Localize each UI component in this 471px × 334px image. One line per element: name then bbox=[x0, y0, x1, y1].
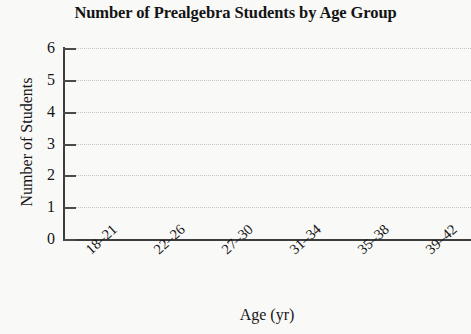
y-axis-tick-label: 0 bbox=[29, 231, 55, 247]
y-axis-tick bbox=[63, 239, 76, 241]
y-axis-tick bbox=[63, 48, 76, 50]
x-axis-title: Age (yr) bbox=[63, 306, 471, 324]
y-axis-tick bbox=[63, 112, 76, 114]
y-axis-tick-label: 6 bbox=[29, 40, 55, 56]
y-axis-tick-label: 2 bbox=[29, 167, 55, 183]
gridline bbox=[63, 112, 471, 113]
x-axis-line bbox=[63, 239, 471, 241]
chart-title: Number of Prealgebra Students by Age Gro… bbox=[0, 3, 471, 23]
y-axis-tick-label: 5 bbox=[29, 72, 55, 88]
y-axis-tick-label: 3 bbox=[29, 136, 55, 152]
y-axis-tick-label: 1 bbox=[29, 199, 55, 215]
gridline bbox=[63, 175, 471, 176]
y-axis-tick bbox=[63, 207, 76, 209]
gridline bbox=[63, 144, 471, 145]
gridline bbox=[63, 48, 471, 49]
y-axis-tick-label: 4 bbox=[29, 104, 55, 120]
bar-chart: Number of Prealgebra Students by Age Gro… bbox=[0, 0, 471, 334]
y-axis-tick bbox=[63, 175, 76, 177]
gridline bbox=[63, 80, 471, 81]
y-axis-tick bbox=[63, 80, 76, 82]
y-axis-tick bbox=[63, 144, 76, 146]
